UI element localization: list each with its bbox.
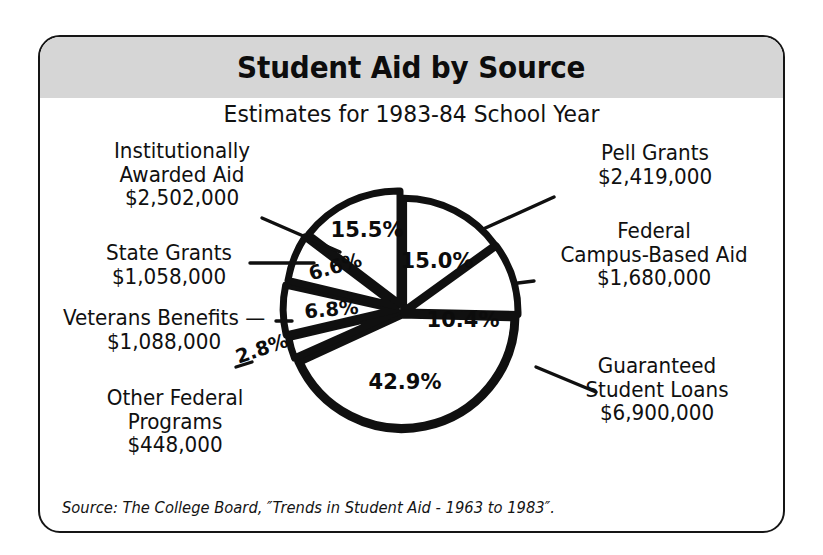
callout-institutionally-awarded-aid: Institutionally Awarded Aid $2,502,000	[72, 140, 292, 211]
callout-state-grants: State Grants $1,058,000	[62, 242, 277, 289]
callout-other-federal-programs: Other Federal Programs $448,000	[68, 387, 283, 458]
pct-gsl: 42.9%	[369, 370, 442, 394]
callout-veterans-benefits: Veterans Benefits — $1,088,000	[52, 307, 276, 354]
source-note: Source: The College Board, ″Trends in St…	[62, 499, 555, 517]
pct-veterans: 6.8%	[303, 296, 359, 324]
callout-federal-campus-based-aid: Federal Campus-Based Aid $1,680,000	[540, 220, 768, 291]
pct-pell: 15.0%	[401, 249, 474, 273]
leader-line-campus	[518, 281, 534, 283]
pct-campus: 10.4%	[427, 308, 500, 332]
callout-pell-grants: Pell Grants $2,419,000	[546, 142, 765, 189]
pct-institutional: 15.5%	[331, 218, 404, 242]
chart-card: Student Aid by Source Estimates for 1983…	[38, 35, 785, 533]
callout-guaranteed-student-loans: Guaranteed Student Loans $6,900,000	[546, 355, 768, 426]
